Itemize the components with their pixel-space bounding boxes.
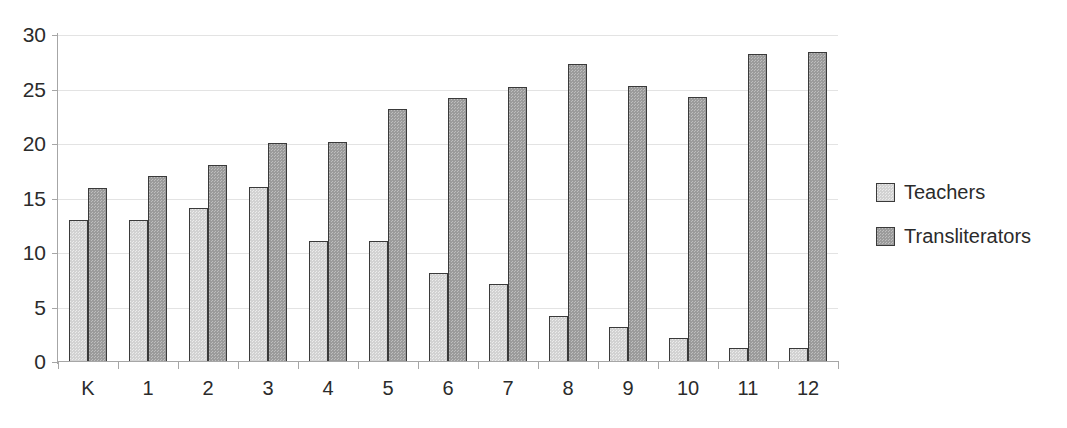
- x-axis-tick-label: 11: [718, 378, 778, 398]
- y-axis-tick-label: 10: [6, 242, 46, 263]
- x-axis-line: [57, 361, 839, 362]
- bar-6-teachers: [429, 273, 448, 362]
- bar-9-transliterators: [628, 86, 647, 362]
- x-axis-tick: [58, 362, 59, 369]
- bar-10-transliterators: [688, 97, 707, 362]
- x-axis-tick-label: 3: [238, 378, 298, 398]
- x-axis-tick-label: 7: [478, 378, 538, 398]
- y-axis-tick-label: 20: [6, 133, 46, 154]
- bar-12-teachers: [789, 348, 808, 362]
- x-axis-tick: [838, 362, 839, 369]
- legend-item-teachers: Teachers: [876, 170, 1031, 214]
- bar-1-transliterators: [148, 176, 167, 362]
- x-axis-tick: [598, 362, 599, 369]
- x-axis-tick: [778, 362, 779, 369]
- bar-7-transliterators: [508, 87, 527, 362]
- bar-7-teachers: [489, 284, 508, 362]
- bar-11-teachers: [729, 348, 748, 362]
- x-axis-tick: [658, 362, 659, 369]
- bar-12-transliterators: [808, 52, 827, 362]
- bar-4-teachers: [309, 241, 328, 362]
- x-axis-tick: [418, 362, 419, 369]
- x-axis-tick-label: 9: [598, 378, 658, 398]
- bar-K-transliterators: [88, 188, 107, 362]
- legend-label-transliterators: Transliterators: [904, 226, 1031, 246]
- bar-5-transliterators: [388, 109, 407, 362]
- bar-9-teachers: [609, 327, 628, 362]
- bar-5-teachers: [369, 241, 388, 362]
- gridline: [58, 90, 838, 91]
- x-axis-tick-label: K: [58, 378, 118, 398]
- bar-K-teachers: [69, 220, 88, 362]
- legend-swatch-teachers-icon: [876, 183, 895, 202]
- bar-10-teachers: [669, 338, 688, 362]
- y-axis-tick: [52, 144, 58, 145]
- x-axis-tick-label: 2: [178, 378, 238, 398]
- bar-3-teachers: [249, 187, 268, 362]
- y-axis-tick-label: 15: [6, 188, 46, 209]
- x-axis-tick: [358, 362, 359, 369]
- x-axis-tick: [238, 362, 239, 369]
- x-axis-tick-label: 4: [298, 378, 358, 398]
- x-axis-tick: [298, 362, 299, 369]
- y-axis-tick: [52, 308, 58, 309]
- x-axis-tick-label: 8: [538, 378, 598, 398]
- bar-2-teachers: [189, 208, 208, 362]
- bar-1-teachers: [129, 220, 148, 362]
- x-axis-tick-label: 1: [118, 378, 178, 398]
- bar-2-transliterators: [208, 165, 227, 362]
- x-axis-tick-label: 5: [358, 378, 418, 398]
- plot-area: [58, 35, 838, 362]
- bar-3-transliterators: [268, 143, 287, 362]
- y-axis-tick-label: 0: [6, 351, 46, 372]
- bar-chart: 051015202530 K123456789101112 Teachers T…: [0, 0, 1067, 428]
- bar-11-transliterators: [748, 54, 767, 362]
- x-axis-tick: [718, 362, 719, 369]
- y-axis-tick-label: 30: [6, 24, 46, 45]
- y-axis-tick-label: 5: [6, 297, 46, 318]
- y-axis-tick: [52, 253, 58, 254]
- x-axis-tick: [118, 362, 119, 369]
- legend-item-transliterators: Transliterators: [876, 214, 1031, 258]
- gridline: [58, 35, 838, 36]
- x-axis-tick: [178, 362, 179, 369]
- legend-label-teachers: Teachers: [904, 182, 985, 202]
- x-axis-tick: [478, 362, 479, 369]
- x-axis-tick: [538, 362, 539, 369]
- bar-8-transliterators: [568, 64, 587, 362]
- y-axis-tick: [52, 199, 58, 200]
- bar-6-transliterators: [448, 98, 467, 362]
- bar-4-transliterators: [328, 142, 347, 362]
- y-axis-tick: [52, 35, 58, 36]
- x-axis-tick-label: 12: [778, 378, 838, 398]
- y-axis-tick: [52, 90, 58, 91]
- x-axis-tick-label: 10: [658, 378, 718, 398]
- legend-swatch-transliterators-icon: [876, 227, 895, 246]
- x-axis-tick-label: 6: [418, 378, 478, 398]
- bar-8-teachers: [549, 316, 568, 362]
- chart-legend: Teachers Transliterators: [876, 170, 1031, 258]
- y-axis-tick-label: 25: [6, 79, 46, 100]
